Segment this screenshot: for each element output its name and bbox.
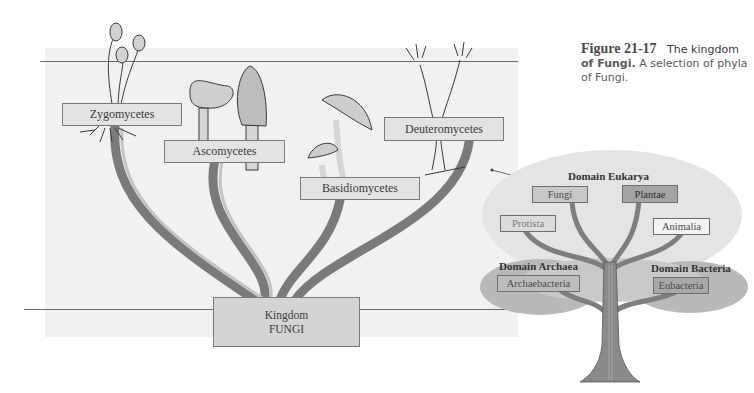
kingdom-fungi-box: Kingdom FUNGI — [213, 297, 360, 347]
phylum-label-basidiomycetes: Basidiomycetes — [300, 177, 420, 200]
figure-caption: Figure 21-17 The kingdom of Fungi. A sel… — [581, 42, 753, 85]
phylum-label-ascomycetes: Ascomycetes — [164, 140, 285, 163]
figure-title-lead: The kingdom — [667, 43, 739, 56]
kingdom-plantae-label: Plantae — [622, 185, 678, 203]
phylum-label-zygomycetes: Zygomycetes — [62, 103, 182, 126]
domain-eukarya-label: Domain Eukarya — [568, 170, 649, 182]
kingdom-archaebacteria-label: Archaebacteria — [497, 275, 580, 292]
kingdom-line1: Kingdom — [265, 308, 308, 322]
figure-number: Figure 21-17 — [581, 41, 657, 56]
kingdom-animalia-label: Animalia — [653, 218, 710, 235]
kingdom-eubacteria-label: Eubacteria — [653, 277, 709, 294]
kingdom-line2: FUNGI — [269, 322, 304, 336]
phylum-label-deuteromycetes: Deuteromycetes — [384, 117, 504, 141]
basidiomycetes-illustration — [308, 95, 372, 187]
domain-bacteria-label: Domain Bacteria — [651, 262, 731, 274]
kingdom-protista-label: Protista — [500, 215, 556, 232]
figure-title-bold: of Fungi. — [581, 57, 636, 70]
domain-archaea-label: Domain Archaea — [499, 260, 578, 272]
kingdom-fungi-label: Fungi — [532, 186, 588, 203]
